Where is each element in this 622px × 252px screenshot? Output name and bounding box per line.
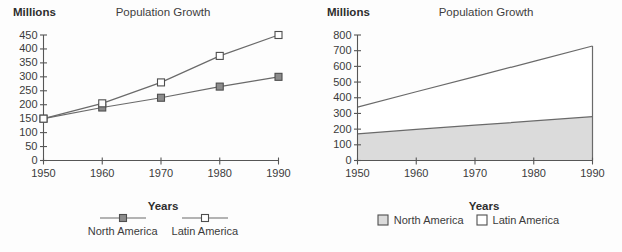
- svg-text:1980: 1980: [208, 167, 232, 179]
- line-chart-plot: 0501001502002503003504004501950196019701…: [0, 0, 311, 200]
- area-chart-legend: North America Latin America: [345, 214, 591, 226]
- svg-text:150: 150: [19, 112, 37, 124]
- svg-text:1980: 1980: [522, 167, 546, 179]
- svg-text:250: 250: [19, 84, 37, 96]
- svg-text:200: 200: [333, 123, 351, 135]
- svg-text:1960: 1960: [404, 167, 428, 179]
- svg-text:400: 400: [333, 91, 351, 103]
- legend-label: Latin America: [493, 214, 560, 226]
- legend-label: North America: [394, 214, 464, 226]
- north-america-swatch-icon: [377, 214, 389, 226]
- svg-text:200: 200: [19, 98, 37, 110]
- svg-text:50: 50: [25, 140, 37, 152]
- line-chart-legend: North America Latin America: [40, 212, 286, 237]
- legend-item-north-america: North America: [88, 212, 158, 237]
- svg-text:500: 500: [333, 76, 351, 88]
- svg-text:400: 400: [19, 42, 37, 54]
- svg-text:100: 100: [333, 138, 351, 150]
- legend-item-north-america: North America: [377, 214, 464, 226]
- svg-text:1950: 1950: [31, 167, 55, 179]
- legend-label: North America: [88, 225, 158, 237]
- svg-text:450: 450: [19, 29, 37, 41]
- svg-text:300: 300: [333, 107, 351, 119]
- area-chart-panel: Millions Population Growth 0100200300400…: [311, 0, 622, 252]
- svg-text:800: 800: [333, 29, 351, 41]
- legend-item-latin-america: Latin America: [172, 212, 239, 237]
- svg-text:1970: 1970: [463, 167, 487, 179]
- area-chart-plot: 0100200300400500600700800195019601970198…: [311, 0, 622, 200]
- svg-text:700: 700: [333, 44, 351, 56]
- svg-text:350: 350: [19, 56, 37, 68]
- svg-text:1970: 1970: [149, 167, 173, 179]
- latin-america-line-marker-icon: [182, 212, 228, 224]
- svg-text:100: 100: [19, 126, 37, 138]
- svg-text:1960: 1960: [90, 167, 114, 179]
- legend-item-latin-america: Latin America: [476, 214, 560, 226]
- line-chart-panel: Millions Population Growth 0501001502002…: [0, 0, 311, 252]
- svg-text:600: 600: [333, 60, 351, 72]
- svg-text:1990: 1990: [266, 167, 290, 179]
- svg-text:1950: 1950: [345, 167, 369, 179]
- x-axis-label: Years: [361, 200, 607, 212]
- population-growth-figure: Millions Population Growth 0501001502002…: [0, 0, 622, 252]
- svg-text:0: 0: [31, 154, 37, 166]
- north-america-line-marker-icon: [100, 212, 146, 224]
- legend-label: Latin America: [172, 225, 239, 237]
- latin-america-swatch-icon: [476, 214, 488, 226]
- svg-text:300: 300: [19, 70, 37, 82]
- x-axis-label: Years: [40, 200, 286, 212]
- svg-text:0: 0: [345, 154, 351, 166]
- svg-text:1990: 1990: [580, 167, 604, 179]
